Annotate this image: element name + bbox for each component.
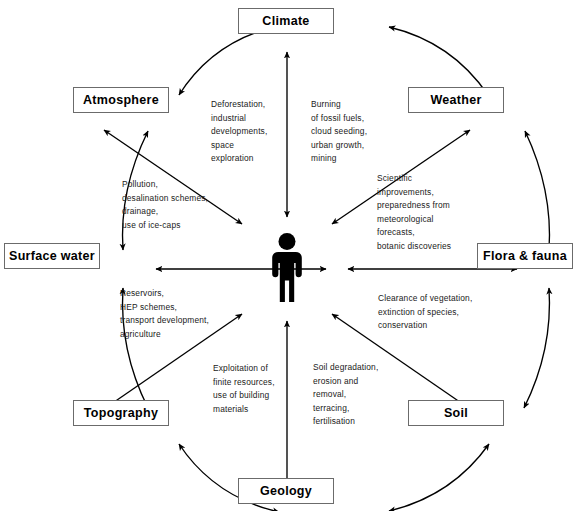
annotation-weather-impacts: Burning of fossil fuels, cloud seeding, … [311,98,367,166]
annotation-climate-impacts: Deforestation, industrial developments, … [211,98,267,166]
node-geology[interactable]: Geology [238,478,334,504]
node-flora-fauna-label: Flora & fauna [483,249,567,263]
node-soil[interactable]: Soil [408,400,504,426]
node-flora-fauna[interactable]: Flora & fauna [477,243,573,269]
node-weather[interactable]: Weather [408,87,504,113]
node-surface-water[interactable]: Surface water [4,243,100,269]
node-climate-label: Climate [262,14,309,28]
annotation-geology-impacts: Exploitation of finite resources, use of… [213,362,275,416]
annotation-topography-impacts: Reservoirs, HEP schemes, transport devel… [120,287,209,341]
node-climate[interactable]: Climate [238,8,334,34]
arc-soil-geology [389,444,489,511]
node-geology-label: Geology [260,484,312,498]
arc-atmosphere-climate [179,26,279,95]
annotation-flora-fauna-impacts: Scientific improvements, preparedness fr… [377,172,451,254]
arc-weather-flora [525,131,550,250]
person-figure-icon [265,232,309,304]
node-weather-label: Weather [430,93,481,107]
environment-interaction-diagram: Climate Weather Flora & fauna Soil Geolo… [0,0,573,511]
arc-flora-soil [524,288,549,408]
node-topography[interactable]: Topography [73,400,169,426]
node-soil-label: Soil [444,406,468,420]
node-surface-water-label: Surface water [9,249,95,263]
node-atmosphere[interactable]: Atmosphere [73,87,169,113]
annotation-soil-degradation: Soil degradation, erosion and removal, t… [313,361,378,429]
node-topography-label: Topography [84,406,158,420]
arc-climate-weather [389,27,488,95]
node-atmosphere-label: Atmosphere [83,93,159,107]
annotation-surface-water-impacts: Pollution, desalination schemes, drainag… [122,178,208,232]
annotation-soil-impacts: Clearance of vegetation, extinction of s… [378,292,472,333]
